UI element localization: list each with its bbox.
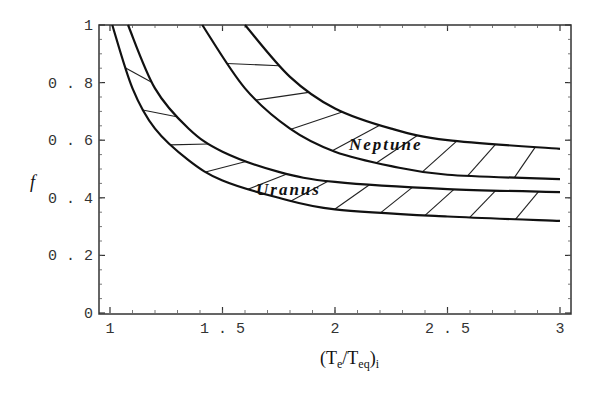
x-axis-label: (Te/Teq)i (320, 348, 380, 371)
uranus-upper-curve (128, 25, 560, 192)
neptune-lower-curve (202, 25, 560, 179)
band-curves (112, 25, 560, 221)
chart: 00 . 20 . 40 . 60 . 81 11 . 522 . 53 f (… (0, 0, 599, 397)
svg-text:0 . 8: 0 . 8 (48, 76, 93, 93)
svg-text:2 . 5: 2 . 5 (425, 321, 470, 338)
svg-text:2: 2 (330, 321, 339, 338)
plot-frame (99, 25, 571, 314)
svg-text:1: 1 (84, 18, 93, 35)
svg-text:0 . 4: 0 . 4 (48, 191, 93, 208)
x-tick-labels: 11 . 522 . 53 (105, 321, 564, 338)
uranus-label: Uranus (256, 180, 321, 199)
band-hatching (125, 63, 538, 219)
axis-ticks (99, 25, 571, 313)
y-axis-label: f (30, 172, 38, 192)
y-tick-labels: 00 . 20 . 40 . 60 . 81 (48, 18, 93, 323)
neptune-label: Neptune (348, 135, 423, 154)
svg-text:0: 0 (84, 306, 93, 323)
svg-text:1 . 5: 1 . 5 (200, 321, 245, 338)
svg-text:0 . 2: 0 . 2 (48, 248, 93, 265)
svg-text:0 . 6: 0 . 6 (48, 133, 93, 150)
svg-text:3: 3 (555, 321, 564, 338)
svg-text:1: 1 (105, 321, 114, 338)
